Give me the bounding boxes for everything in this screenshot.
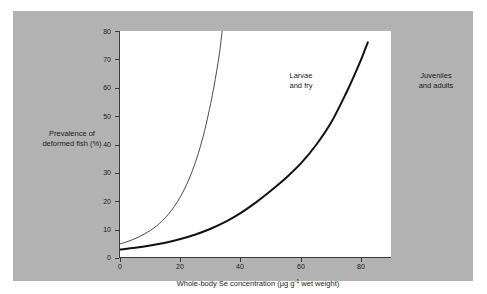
x-tick-label-40: 40 — [230, 263, 250, 271]
y-tick-label-30: 30 — [91, 169, 111, 177]
x-tick-mark-0 — [120, 258, 121, 262]
annotation-juveniles-line1: Juveniles — [410, 71, 462, 81]
y-tick-label-50: 50 — [91, 113, 111, 121]
x-tick-mark-80 — [361, 258, 362, 262]
y-tick-label-10: 10 — [91, 226, 111, 234]
y-tick-label-70: 70 — [91, 56, 111, 64]
x-tick-label-20: 20 — [170, 263, 190, 271]
x-tick-label-0: 0 — [110, 263, 130, 271]
annotation-larvae-line1: Larvae — [279, 71, 323, 81]
plot-curves-svg — [120, 31, 392, 258]
annotation-juveniles-line2: and adults — [410, 81, 462, 91]
y-tick-label-20: 20 — [91, 198, 111, 206]
x-axis-title-prefix: Whole-body Se concentration (µg g — [177, 279, 295, 288]
curve-juveniles-and-adults — [120, 42, 368, 249]
x-axis-title: Whole-body Se concentration (µg g-1 wet … — [123, 279, 393, 289]
figure-root: Prevalence of deformed fish (%) Whole-bo… — [0, 0, 487, 294]
y-tick-label-80: 80 — [91, 28, 111, 36]
x-axis-title-suffix: wet weight) — [299, 279, 339, 288]
y-axis-title-line1: Prevalence of — [35, 129, 109, 139]
x-tick-label-80: 80 — [351, 263, 371, 271]
x-tick-label-60: 60 — [291, 263, 311, 271]
y-tick-label-0: 0 — [91, 254, 111, 262]
x-tick-mark-60 — [301, 258, 302, 262]
annotation-larvae-and-fry: Larvae and fry — [279, 71, 323, 90]
curve-larvae-and-fry — [120, 31, 222, 244]
x-tick-mark-40 — [240, 258, 241, 262]
y-tick-mark-0 — [115, 258, 119, 259]
plot-area: Larvae and fry Juveniles and adults — [119, 31, 391, 258]
y-tick-label-40: 40 — [91, 141, 111, 149]
figure-panel: Prevalence of deformed fish (%) Whole-bo… — [13, 11, 473, 281]
y-tick-label-60: 60 — [91, 84, 111, 92]
annotation-larvae-line2: and fry — [279, 81, 323, 91]
annotation-juveniles-and-adults: Juveniles and adults — [410, 71, 462, 90]
x-tick-mark-20 — [180, 258, 181, 262]
